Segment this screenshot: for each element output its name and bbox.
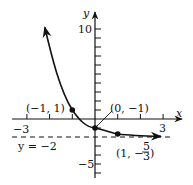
point-neg1-1 — [70, 107, 76, 113]
svg-text:): ) — [150, 147, 154, 160]
y-axis-label: y — [82, 7, 90, 20]
y-ticks — [95, 29, 101, 173]
point-1-neg5-3 — [115, 131, 121, 137]
svg-text:3: 3 — [143, 150, 150, 163]
y-tick-label-neg5: −5 — [78, 158, 94, 171]
point-label-neg1-1: (−1, 1) — [26, 102, 65, 115]
x-tick-label-neg3: −3 — [13, 123, 29, 136]
exponential-graph: y x 10 −5 −3 3 (−1, 1) (0, −1) y = −2 (1… — [0, 0, 193, 185]
asymptote-label: y = −2 — [17, 140, 57, 153]
x-tick-label-3: 3 — [159, 122, 166, 135]
y-tick-label-10: 10 — [78, 23, 92, 36]
svg-text:(1, −: (1, − — [116, 147, 144, 160]
point-label-1-neg5-3: (1, − 5 3 ) — [116, 140, 154, 163]
x-axis-label: x — [176, 107, 183, 120]
point-label-0-neg1: (0, −1) — [110, 102, 149, 115]
